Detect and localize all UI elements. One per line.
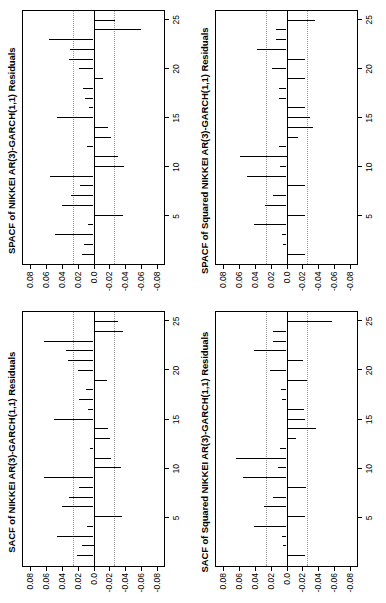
- acf-bar: [79, 487, 93, 488]
- x-tick-label: 5: [364, 214, 374, 219]
- acf-bar: [270, 370, 286, 371]
- acf-bar: [287, 254, 306, 255]
- plot-area: [22, 312, 165, 568]
- acf-bar: [243, 477, 286, 478]
- acf-bar: [94, 215, 124, 216]
- y-tick: [125, 567, 126, 571]
- x-tick: [165, 215, 169, 216]
- acf-bar: [62, 507, 93, 508]
- confidence-band: [307, 11, 308, 265]
- acf-bar: [287, 380, 307, 381]
- y-tick: [141, 266, 142, 270]
- acf-bar: [87, 147, 93, 148]
- acf-bar: [236, 458, 287, 459]
- acf-bar: [282, 536, 287, 537]
- y-tick-label: 0.06: [234, 573, 244, 590]
- acf-bar: [94, 127, 108, 128]
- y-tick-label: 0.02: [73, 272, 83, 289]
- y-tick: [30, 266, 31, 270]
- y-tick: [287, 266, 288, 270]
- y-tick: [255, 567, 256, 571]
- x-tick-label: 5: [171, 214, 181, 219]
- x-tick-label: 15: [171, 415, 181, 424]
- y-axis: 0.080.060.040.020.0-0.02-0.04-0.06-0.08: [215, 567, 358, 603]
- panel-sacf-nikkei-residuals: SACF of NIKKEI AR(3)-GARCH(1,1) Residual…: [0, 302, 193, 603]
- y-tick: [157, 567, 158, 571]
- acf-bar: [70, 49, 94, 50]
- panel-title: SPACF of NIKKEI AR(3)-GARCH(1,1) Residua…: [6, 0, 17, 302]
- acf-bar: [287, 215, 305, 216]
- acf-bar: [88, 409, 93, 410]
- acf-bar: [86, 390, 94, 391]
- y-tick: [350, 266, 351, 270]
- y-tick: [46, 266, 47, 270]
- acf-bar: [257, 49, 287, 50]
- acf-bar: [79, 69, 94, 70]
- y-tick: [157, 266, 158, 270]
- panel-spacf-squared-nikkei-residuals: SPACF of Squared NIKKEI AR(3)-GARCH(1,1)…: [193, 0, 386, 302]
- acf-bar: [280, 166, 286, 167]
- acf-bar: [94, 78, 103, 79]
- acf-bar: [62, 205, 93, 206]
- acf-bar: [273, 341, 286, 342]
- acf-bar: [54, 419, 94, 420]
- y-tick-label: -0.06: [329, 272, 339, 291]
- x-tick-label: 10: [364, 163, 374, 172]
- zero-line: [287, 11, 288, 265]
- acf-bar: [287, 59, 305, 60]
- y-tick: [141, 567, 142, 571]
- x-tick-label: 5: [364, 516, 374, 521]
- acf-bar: [77, 555, 93, 556]
- acf-bar: [78, 370, 94, 371]
- acf-bar: [279, 147, 287, 148]
- panel-spacf-nikkei-residuals: SPACF of NIKKEI AR(3)-GARCH(1,1) Residua…: [0, 0, 193, 302]
- y-tick-label: -0.02: [104, 272, 114, 291]
- acf-bar: [254, 526, 286, 527]
- confidence-band: [114, 11, 115, 265]
- x-tick-label: 20: [364, 64, 374, 73]
- x-tick-label: 20: [171, 64, 181, 73]
- acf-bar: [279, 88, 286, 89]
- x-tick-label: 5: [171, 516, 181, 521]
- y-tick-label: -0.04: [313, 272, 323, 291]
- x-tick-label: 20: [364, 366, 374, 375]
- y-tick: [109, 567, 110, 571]
- y-tick-label: 0.08: [218, 272, 228, 289]
- acf-bar: [94, 166, 125, 167]
- y-tick-label: 0.08: [25, 573, 35, 590]
- zero-line: [94, 313, 95, 567]
- y-tick-label: 0.02: [266, 272, 276, 289]
- x-tick: [165, 320, 169, 321]
- x-tick: [358, 419, 362, 420]
- acf-bar: [254, 351, 287, 352]
- y-tick-label: 0.0: [89, 272, 99, 284]
- acf-bar: [44, 341, 93, 342]
- acf-bar: [283, 546, 286, 547]
- acf-bar: [282, 234, 287, 235]
- y-tick-label: -0.06: [329, 573, 339, 592]
- x-tick: [165, 468, 169, 469]
- bars-layer: [216, 313, 357, 567]
- acf-bar: [287, 20, 315, 21]
- y-tick-label: -0.04: [313, 573, 323, 592]
- x-tick: [358, 320, 362, 321]
- y-tick: [62, 567, 63, 571]
- y-tick: [46, 567, 47, 571]
- y-tick: [94, 567, 95, 571]
- acf-bar: [55, 234, 93, 235]
- y-tick: [334, 266, 335, 270]
- x-tick: [165, 166, 169, 167]
- x-tick: [358, 369, 362, 370]
- y-tick: [302, 567, 303, 571]
- bars-layer: [23, 11, 164, 265]
- x-tick-label: 25: [364, 317, 374, 326]
- x-tick: [358, 468, 362, 469]
- x-tick: [358, 68, 362, 69]
- y-tick: [302, 266, 303, 270]
- panel-grid: SACF of NIKKEI AR(3)-GARCH(1,1) Residual…: [0, 0, 386, 603]
- y-tick: [94, 266, 95, 270]
- acf-bar: [264, 507, 287, 508]
- acf-bar: [94, 458, 111, 459]
- acf-bar: [281, 390, 286, 391]
- acf-bar: [83, 88, 93, 89]
